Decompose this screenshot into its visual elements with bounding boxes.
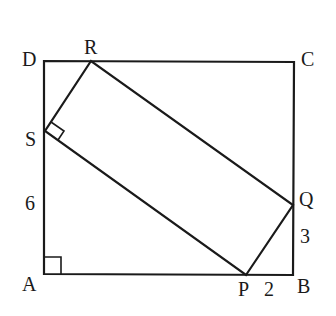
label-c: C bbox=[301, 48, 314, 70]
label-b: B bbox=[297, 275, 310, 297]
label-q: Q bbox=[299, 188, 314, 210]
rectangle-pqrs bbox=[45, 61, 293, 275]
label-s: S bbox=[25, 128, 36, 150]
measure-bq: 3 bbox=[300, 225, 310, 247]
label-r: R bbox=[84, 36, 98, 58]
rectangle-abcd bbox=[44, 61, 294, 275]
label-a: A bbox=[22, 273, 37, 295]
label-d: D bbox=[22, 48, 36, 70]
geometry-figure: D R C S Q A P B 6 3 2 bbox=[0, 0, 336, 316]
figure-svg: D R C S Q A P B 6 3 2 bbox=[0, 0, 336, 316]
label-p: P bbox=[238, 278, 249, 300]
right-angle-marker-a bbox=[44, 257, 61, 274]
measure-pb: 2 bbox=[264, 278, 274, 300]
measure-as: 6 bbox=[25, 192, 35, 214]
